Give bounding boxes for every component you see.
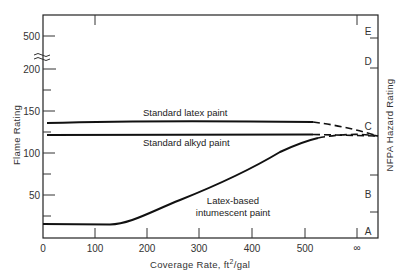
flame-rating-chart: 500 200 150 100 50 0 100 200 300 400 500…: [0, 0, 405, 274]
y-tick-500: 500: [23, 31, 40, 42]
x-tick-100: 100: [87, 243, 104, 254]
hazard-label-e: E: [365, 26, 372, 37]
x-tick-400: 400: [244, 243, 261, 254]
label-latex: Standard latex paint: [143, 107, 228, 118]
x-tick-0: 0: [40, 243, 46, 254]
y-axis-title: Flame Rating: [11, 105, 22, 165]
label-intumescent-2: intumescent paint: [196, 207, 271, 218]
x-tick-500: 500: [297, 243, 314, 254]
hazard-label-c: C: [364, 121, 371, 132]
axis-break-icon: [34, 54, 50, 61]
y-tick-200: 200: [23, 64, 40, 75]
y-tick-50: 50: [29, 190, 41, 201]
y-tick-100: 100: [23, 148, 40, 159]
y2-axis-title: NFPA Hazard Rating: [384, 79, 395, 172]
series-alkyd-solid: [47, 135, 313, 136]
label-intumescent-1: Latex-based: [207, 195, 259, 206]
series-intumescent-solid: [43, 138, 318, 225]
hazard-label-b: B: [365, 189, 372, 200]
x-axis-title: Coverage Rate, ft2/gal: [150, 258, 250, 270]
x-tick-300: 300: [191, 243, 208, 254]
x-tick-infinity: ∞: [353, 242, 360, 253]
hazard-label-d: D: [364, 56, 371, 67]
label-alkyd: Standard alkyd paint: [143, 137, 230, 148]
y-axis-ticks: [43, 36, 56, 216]
series-latex-solid: [47, 121, 313, 123]
y-tick-150: 150: [23, 106, 40, 117]
hazard-label-a: A: [365, 226, 372, 237]
x-tick-200: 200: [139, 243, 156, 254]
